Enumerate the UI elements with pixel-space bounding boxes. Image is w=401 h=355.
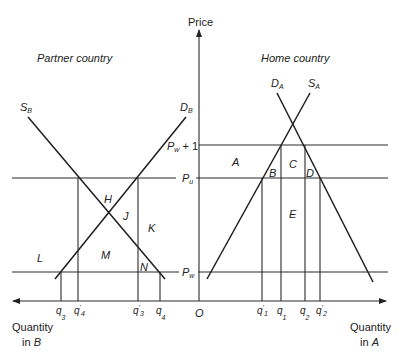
area-d: D xyxy=(306,167,314,179)
pw-plus-1-label: Pw + 1 xyxy=(167,140,198,153)
quantity-b-label-line1: Quantity xyxy=(12,321,53,333)
price-axis-label: Price xyxy=(188,16,213,28)
home-country-title: Home country xyxy=(261,52,331,64)
partner-country-title: Partner country xyxy=(37,52,114,64)
area-h: H xyxy=(104,193,112,205)
pu-label: Pu xyxy=(182,172,193,185)
area-c: C xyxy=(289,158,297,170)
q2-prime-label: q'2 xyxy=(316,304,327,317)
q3-prime-label: q'3 xyxy=(133,304,144,317)
q3-label: q3 xyxy=(56,305,66,321)
area-n: N xyxy=(140,261,148,273)
supply-curve-a xyxy=(207,93,310,279)
q4-prime-label: q'4 xyxy=(74,304,85,317)
area-k: K xyxy=(148,222,156,234)
area-b: B xyxy=(269,167,276,179)
q4-label: q4 xyxy=(156,305,166,321)
area-j: J xyxy=(122,210,129,222)
quantity-a-label-line2: in A xyxy=(360,336,379,348)
area-a: A xyxy=(231,156,239,168)
q1-prime-label: q'1 xyxy=(257,304,268,317)
supply-b-label: SB xyxy=(20,101,32,114)
customs-union-diagram: Price O Quantity in B Quantity in A Pw +… xyxy=(0,0,401,355)
demand-b-label: DB xyxy=(180,101,193,114)
area-l: L xyxy=(37,252,43,264)
supply-curve-b xyxy=(28,117,165,279)
q2-label: q2 xyxy=(300,305,310,321)
area-m: M xyxy=(101,249,111,261)
supply-a-label: SA xyxy=(308,77,320,90)
q1-label: q1 xyxy=(277,305,287,321)
pw-label: Pw xyxy=(182,266,195,279)
origin-label: O xyxy=(195,307,204,319)
quantity-b-label-line2: in B xyxy=(22,336,41,348)
demand-a-label: DA xyxy=(271,77,284,90)
area-e: E xyxy=(289,208,297,220)
demand-curve-a xyxy=(277,93,373,282)
quantity-a-label-line1: Quantity xyxy=(350,321,391,333)
